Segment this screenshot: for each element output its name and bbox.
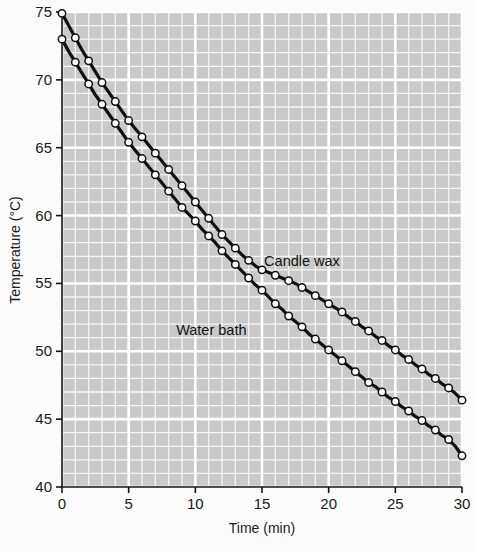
data-point-marker — [378, 337, 385, 344]
data-point-marker — [218, 247, 225, 254]
data-point-marker — [365, 327, 372, 334]
y-tick-label: 70 — [35, 71, 52, 88]
y-tick-label: 75 — [35, 3, 52, 20]
data-point-marker — [165, 187, 172, 194]
data-point-marker — [458, 396, 465, 403]
data-point-marker — [285, 312, 292, 319]
y-axis-title: Temperature (°C) — [7, 196, 23, 304]
data-point-marker — [138, 155, 145, 162]
y-tick-label: 50 — [35, 342, 52, 359]
data-point-marker — [418, 365, 425, 372]
data-point-marker — [312, 335, 319, 342]
series-label-water-bath: Water bath — [176, 322, 246, 338]
x-tick-label: 0 — [58, 495, 66, 512]
data-point-marker — [192, 217, 199, 224]
data-point-marker — [392, 346, 399, 353]
data-point-marker — [458, 452, 465, 459]
y-tick-label: 45 — [35, 410, 52, 427]
data-point-marker — [338, 308, 345, 315]
data-point-marker — [72, 59, 79, 66]
y-tick-label: 40 — [35, 478, 52, 495]
data-point-marker — [312, 292, 319, 299]
data-point-marker — [112, 98, 119, 105]
data-point-marker — [178, 182, 185, 189]
data-point-marker — [245, 274, 252, 281]
data-point-marker — [338, 357, 345, 364]
data-point-marker — [272, 300, 279, 307]
x-tick-label: 5 — [124, 495, 132, 512]
x-tick-label: 15 — [254, 495, 271, 512]
data-point-marker — [138, 133, 145, 140]
data-point-marker — [98, 79, 105, 86]
data-point-marker — [298, 284, 305, 291]
data-point-marker — [165, 166, 172, 173]
series-label-candle-wax: Candle wax — [264, 253, 341, 269]
y-axis-tick-labels: 4045505560657075 — [35, 3, 52, 495]
data-point-marker — [432, 375, 439, 382]
data-point-marker — [98, 101, 105, 108]
data-point-marker — [245, 257, 252, 264]
data-point-marker — [125, 139, 132, 146]
data-point-marker — [258, 287, 265, 294]
y-tick-label: 55 — [35, 274, 52, 291]
x-tick-label: 10 — [187, 495, 204, 512]
data-point-marker — [58, 35, 65, 42]
data-point-marker — [325, 300, 332, 307]
data-point-marker — [205, 232, 212, 239]
data-point-marker — [418, 417, 425, 424]
data-point-marker — [392, 398, 399, 405]
data-point-marker — [192, 198, 199, 205]
data-point-marker — [298, 323, 305, 330]
data-point-marker — [232, 244, 239, 251]
data-point-marker — [432, 426, 439, 433]
y-tick-label: 60 — [35, 207, 52, 224]
data-point-marker — [205, 215, 212, 222]
data-point-marker — [325, 346, 332, 353]
x-axis-title: Time (min) — [229, 520, 295, 536]
data-point-marker — [365, 379, 372, 386]
data-point-marker — [152, 171, 159, 178]
x-tick-label: 25 — [387, 495, 404, 512]
data-point-marker — [445, 436, 452, 443]
data-point-marker — [218, 231, 225, 238]
y-tick-label: 65 — [35, 139, 52, 156]
data-point-marker — [232, 261, 239, 268]
data-point-marker — [405, 356, 412, 363]
data-point-marker — [85, 57, 92, 64]
data-point-marker — [445, 384, 452, 391]
data-point-marker — [352, 368, 359, 375]
cooling-curve-figure: 051015202530 4045505560657075 Time (min)… — [0, 0, 477, 551]
data-point-marker — [378, 388, 385, 395]
x-axis-tick-labels: 051015202530 — [58, 495, 471, 512]
data-point-marker — [285, 277, 292, 284]
data-point-marker — [178, 204, 185, 211]
data-point-marker — [152, 149, 159, 156]
x-tick-label: 20 — [320, 495, 337, 512]
data-point-marker — [272, 272, 279, 279]
data-point-marker — [125, 117, 132, 124]
data-point-marker — [58, 10, 65, 17]
data-point-marker — [72, 34, 79, 41]
data-point-marker — [352, 318, 359, 325]
data-point-marker — [405, 407, 412, 414]
x-tick-label: 30 — [454, 495, 471, 512]
data-point-marker — [85, 80, 92, 87]
chart-canvas: 051015202530 4045505560657075 Time (min)… — [0, 0, 477, 551]
data-point-marker — [112, 120, 119, 127]
